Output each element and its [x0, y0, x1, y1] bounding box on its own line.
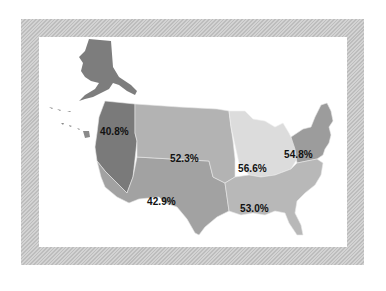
label-southwest: 42.9% [147, 196, 176, 207]
label-southeast: 53.0% [240, 203, 269, 214]
alaska-shape [79, 39, 137, 101]
label-midwest: 56.6% [238, 163, 267, 174]
hawaii-shape [61, 123, 90, 138]
map-frame: 40.8% 52.3% 42.9% 56.6% 54.8% 53.0% [21, 19, 364, 265]
map-canvas: 40.8% 52.3% 42.9% 56.6% 54.8% 53.0% [39, 37, 347, 247]
label-pacific-northwest: 40.8% [100, 126, 129, 137]
aleutian-islands [49, 107, 71, 112]
label-northeast: 54.8% [284, 149, 313, 160]
label-mountain-plains: 52.3% [170, 153, 199, 164]
us-map [39, 37, 347, 247]
region-pacific-northwest [95, 101, 137, 193]
